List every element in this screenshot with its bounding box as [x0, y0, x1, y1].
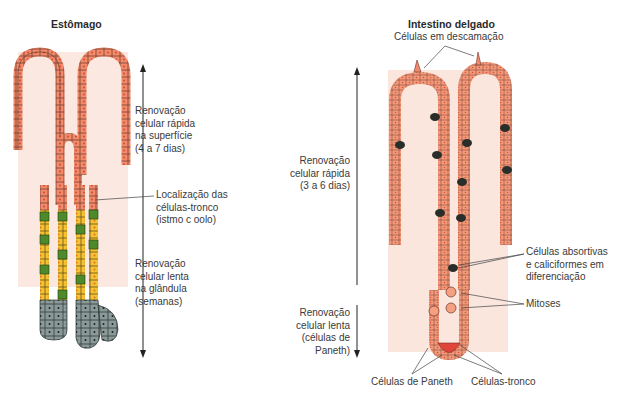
shedding-cells-label: Células em descamação: [394, 31, 504, 44]
intestine-fast-renewal-label: Renovação celular rápida (3 a 6 dias): [280, 155, 350, 193]
intestine-slow-renewal-label: Renovação celular lenta (células de Pane…: [280, 307, 350, 357]
paneth-cells-label: Células de Paneth: [371, 376, 453, 389]
intestine-arrows: [354, 67, 360, 358]
stomach-slow-renewal-label: Renovação celular lenta na glândula (sem…: [135, 258, 189, 308]
stomach-stem-location-label: Localização das células-tronco (istmo c …: [156, 189, 228, 227]
differentiating-cells-label: Células absortivas e caliciformes em dif…: [526, 246, 608, 284]
intestine-illustration: [388, 52, 512, 355]
mitoses-label: Mitoses: [526, 298, 560, 311]
stomach-title: Estômago: [51, 18, 102, 30]
intestine-title: Intestino delgado: [408, 18, 495, 30]
stomach-illustration: [18, 52, 128, 348]
stem-cells-label: Células-tronco: [471, 376, 535, 389]
stomach-fast-renewal-label: Renovação celular rápida na superfície (…: [135, 105, 195, 155]
